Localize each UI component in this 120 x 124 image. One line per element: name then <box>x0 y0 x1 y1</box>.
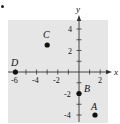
x-axis-arrow-icon <box>106 70 112 74</box>
point-label-A: A <box>90 101 98 112</box>
x-axis-label: x <box>113 67 118 77</box>
y-tick-label: -2 <box>64 90 71 99</box>
x-tick-label: 2 <box>98 76 102 85</box>
y-tick-label: 2 <box>68 47 72 56</box>
y-axis-arrow-icon <box>77 15 81 21</box>
y-tick-label: -4 <box>64 111 71 120</box>
x-tick-label: -4 <box>32 76 39 85</box>
coordinate-plane: x y -6 -4 -2 2 4 2 -2 -4 D C B A <box>0 0 120 124</box>
point-label-D: D <box>10 57 19 68</box>
y-tick-label: 4 <box>68 25 72 34</box>
point-label-C: C <box>43 29 50 40</box>
x-tick-label: -2 <box>53 76 60 85</box>
x-tick-label: -6 <box>11 76 18 85</box>
point-label-B: B <box>84 83 90 94</box>
y-axis-label: y <box>75 4 80 14</box>
